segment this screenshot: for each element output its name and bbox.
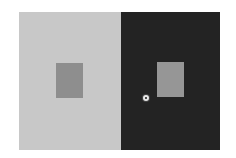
- illusion-canvas: [0, 0, 236, 158]
- dark-panel: [121, 12, 220, 150]
- gray-square-on-light: [56, 63, 83, 98]
- light-panel: [19, 12, 121, 150]
- gray-square-on-dark: [157, 62, 184, 97]
- mouse-cursor-icon: [143, 95, 149, 101]
